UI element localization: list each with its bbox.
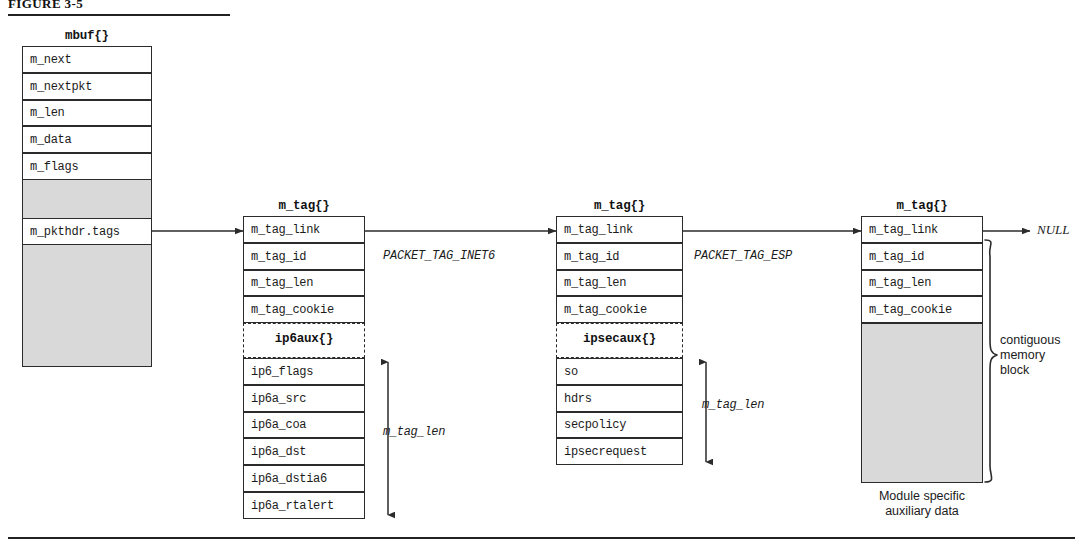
mtag2-aux-field-ipsecrequest: ipsecrequest <box>556 438 683 465</box>
mtag3-field-m_tag_len: m_tag_len <box>861 270 983 296</box>
mtag2-field-m_tag_cookie: m_tag_cookie <box>556 296 683 323</box>
mtag3-field-m_tag_cookie: m_tag_cookie <box>861 296 983 323</box>
mtag3-caption-line1: Module specific <box>861 489 983 504</box>
mtag2-aux-field-secpolicy: secpolicy <box>556 412 683 438</box>
mtag1-len-label: m_tag_len <box>381 424 447 440</box>
mtag2-field-m_tag_id: m_tag_id <box>556 243 683 270</box>
null-terminator-label: NULL <box>1037 222 1070 238</box>
mbuf-shaded-gap-upper <box>22 180 152 218</box>
mbuf-struct-title: mbuf{} <box>22 29 152 43</box>
mtag1-field-m_tag_cookie: m_tag_cookie <box>243 296 365 323</box>
mbuf-field-m_data: m_data <box>22 126 152 153</box>
figure-label: FIGURE 3-5 <box>8 0 83 12</box>
contiguous-memory-brace <box>985 240 997 482</box>
brace-label-line1: contiguous <box>1000 333 1078 348</box>
mtag2-field-m_tag_link: m_tag_link <box>556 216 683 243</box>
mtag3-struct-title: m_tag{} <box>861 199 983 213</box>
mbuf-field-m_flags: m_flags <box>22 153 152 180</box>
mbuf-field-m_len: m_len <box>22 100 152 126</box>
mbuf-field-m_nextpkt: m_nextpkt <box>22 73 152 100</box>
mtag3-field-m_tag_id: m_tag_id <box>861 243 983 270</box>
mtag2-len-label: m_tag_len <box>700 397 766 413</box>
mbuf-field-m_pkthdr-tags: m_pkthdr.tags <box>22 218 152 245</box>
edge-label-packet-tag-inet6: PACKET_TAG_INET6 <box>383 249 495 263</box>
mtag1-aux-field-ip6a_rtalert: ip6a_rtalert <box>243 492 365 519</box>
mtag2-aux-field-so: so <box>556 358 683 385</box>
mtag1-aux-field-ip6a_src: ip6a_src <box>243 385 365 412</box>
mtag1-aux-field-ip6_flags: ip6_flags <box>243 358 365 385</box>
mtag2-field-m_tag_len: m_tag_len <box>556 270 683 296</box>
figure-canvas: FIGURE 3-5 mbuf{} m_next m_nextpkt m_len… <box>0 0 1083 553</box>
mtag2-aux-field-hdrs: hdrs <box>556 385 683 412</box>
mtag1-struct-title: m_tag{} <box>243 199 365 213</box>
figure-top-rule <box>8 14 230 16</box>
mtag1-field-m_tag_len: m_tag_len <box>243 270 365 296</box>
mtag2-aux-title: ipsecaux{} <box>556 332 683 346</box>
mtag1-field-m_tag_id: m_tag_id <box>243 243 365 270</box>
mbuf-shaded-gap-lower <box>22 245 152 367</box>
mbuf-field-m_next: m_next <box>22 46 152 73</box>
mtag1-field-m_tag_link: m_tag_link <box>243 216 365 243</box>
mtag1-aux-title: ip6aux{} <box>243 332 365 346</box>
brace-label-line3: block <box>1000 363 1078 378</box>
mtag3-field-m_tag_link: m_tag_link <box>861 216 983 243</box>
figure-bottom-rule <box>8 537 1075 539</box>
mtag1-aux-field-ip6a_dst: ip6a_dst <box>243 438 365 465</box>
brace-label-line2: memory <box>1000 348 1078 363</box>
edge-label-packet-tag-esp: PACKET_TAG_ESP <box>694 249 792 263</box>
mtag1-aux-field-ip6a_coa: ip6a_coa <box>243 412 365 438</box>
mtag3-module-data-block <box>861 323 983 483</box>
mtag2-struct-title: m_tag{} <box>556 199 683 213</box>
mtag1-aux-field-ip6a_dstia6: ip6a_dstia6 <box>243 465 365 492</box>
mtag3-caption-line2: auxiliary data <box>861 504 983 519</box>
